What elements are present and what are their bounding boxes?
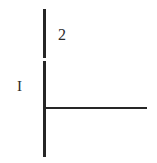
line-drawing-canvas [0, 0, 157, 163]
figure-label-mid-left: I [17, 79, 22, 94]
figure-background [0, 0, 157, 163]
figure-label-upper-right: 2 [58, 27, 66, 43]
figure-container: 2 I [0, 0, 157, 163]
